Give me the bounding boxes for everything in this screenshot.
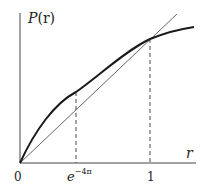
diagram-canvas [0,0,205,188]
x-axis-label: r [186,146,193,160]
y-label-arg: (r) [37,10,55,26]
tick-label-e-minus-4pi: e−4π [67,170,92,183]
tick-base: e [67,169,75,184]
tick-label-origin: 0 [14,171,22,183]
tick-label-one: 1 [147,171,155,183]
y-axis-label: P(r) [28,11,55,25]
p-of-r-curve [20,27,194,163]
tick-exponent: −4π [75,167,92,176]
identity-line [20,14,177,163]
y-label-fn: P [28,10,37,26]
